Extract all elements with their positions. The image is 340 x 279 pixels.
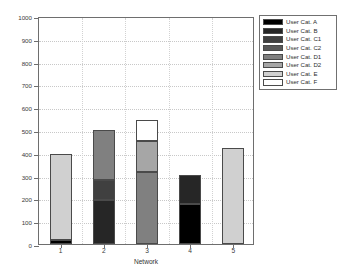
legend-swatch <box>263 36 283 42</box>
figure-canvas: Aggregate Demand (Mb/s) 0100200300400500… <box>0 0 340 279</box>
x-tick-label: 3 <box>145 248 149 255</box>
bar-segment <box>222 148 244 244</box>
y-tick <box>34 132 39 133</box>
legend-item: User Cat. C2 <box>263 44 334 53</box>
y-tick <box>34 64 39 65</box>
legend-item: User Cat. C1 <box>263 35 334 44</box>
bar-segment <box>136 120 158 141</box>
y-tick <box>34 41 39 42</box>
legend-item: User Cat. D1 <box>263 52 334 61</box>
bar-stack <box>222 16 244 244</box>
legend-item: User Cat. F <box>263 78 334 87</box>
legend-label: User Cat. E <box>286 71 318 77</box>
legend-item: User Cat. E <box>263 70 334 79</box>
bar-stack <box>50 16 72 244</box>
bar-segment <box>50 240 72 244</box>
y-tick-label: 500 <box>22 129 32 135</box>
grid-line-vertical <box>212 18 213 244</box>
legend-swatch <box>263 54 283 60</box>
y-tick-label: 600 <box>22 106 32 112</box>
legend-item: User Cat. A <box>263 18 334 27</box>
legend: User Cat. AUser Cat. BUser Cat. C1User C… <box>259 15 337 90</box>
y-tick <box>34 178 39 179</box>
bar-stack <box>93 16 115 244</box>
y-tick-label: 300 <box>22 174 32 180</box>
bar-segment <box>179 175 201 204</box>
grid-line-vertical <box>125 18 126 244</box>
bar-segment <box>136 141 158 172</box>
bar-stack <box>179 16 201 244</box>
legend-swatch <box>263 28 283 34</box>
y-tick-label: 400 <box>22 152 32 158</box>
legend-label: User Cat. A <box>286 19 317 25</box>
y-tick-label: 900 <box>22 38 32 44</box>
legend-label: User Cat. C1 <box>286 36 321 42</box>
y-tick <box>34 109 39 110</box>
x-axis-title: Network <box>38 258 254 265</box>
grid-line-vertical <box>82 18 83 244</box>
plot-area: 01002003004005006007008009001000 12345 <box>38 17 254 245</box>
legend-label: User Cat. C2 <box>286 45 321 51</box>
legend-label: User Cat. D2 <box>286 62 321 68</box>
x-tick-label: 2 <box>102 248 106 255</box>
legend-swatch <box>263 62 283 68</box>
y-tick-label: 800 <box>22 60 32 66</box>
y-tick <box>34 223 39 224</box>
legend-label: User Cat. F <box>286 79 317 85</box>
y-tick <box>34 246 39 247</box>
y-tick-label: 0 <box>29 243 32 249</box>
y-tick <box>34 155 39 156</box>
legend-label: User Cat. D1 <box>286 54 321 60</box>
legend-label: User Cat. B <box>286 28 318 34</box>
legend-swatch <box>263 79 283 85</box>
bar-segment <box>179 204 201 244</box>
y-tick <box>34 18 39 19</box>
bar-segment <box>93 180 115 200</box>
y-tick-label: 700 <box>22 83 32 89</box>
legend-item: User Cat. B <box>263 27 334 36</box>
grid-line-vertical <box>169 18 170 244</box>
bar-segment <box>136 172 158 244</box>
x-tick-label: 5 <box>232 248 236 255</box>
y-tick-label: 1000 <box>18 15 32 21</box>
legend-item: User Cat. D2 <box>263 61 334 70</box>
y-tick-label: 200 <box>22 197 32 203</box>
legend-swatch <box>263 45 283 51</box>
x-tick-label: 4 <box>188 248 192 255</box>
bar-segment <box>93 200 115 244</box>
y-tick-label: 100 <box>22 220 32 226</box>
legend-swatch <box>263 71 283 77</box>
y-tick <box>34 200 39 201</box>
x-tick-label: 1 <box>59 248 63 255</box>
legend-swatch <box>263 19 283 25</box>
bar-segment <box>93 130 115 181</box>
y-tick <box>34 86 39 87</box>
bar-segment <box>50 154 72 240</box>
bar-stack <box>136 16 158 244</box>
